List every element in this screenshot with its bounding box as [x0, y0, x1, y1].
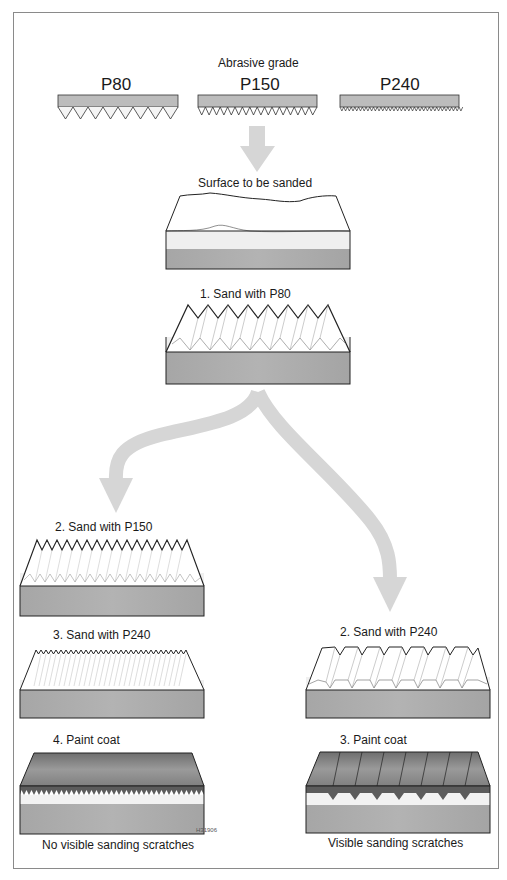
block-p150	[20, 540, 204, 616]
label-right-step2: 2. Sand with P240	[340, 625, 437, 639]
block-p80	[166, 305, 350, 384]
abrasive-p150	[198, 95, 317, 115]
label-surface: Surface to be sanded	[198, 176, 312, 190]
sanding-diagram	[0, 0, 507, 880]
label-right-result: Visible sanding scratches	[328, 836, 463, 850]
label-step1: 1. Sand with P80	[200, 287, 291, 301]
arrow-right-head-icon	[373, 577, 407, 612]
label-left-result: No visible sanding scratches	[42, 838, 194, 852]
arrow-down-icon	[240, 126, 275, 172]
block-paint-scratched	[306, 752, 490, 833]
grade-label-p150: P150	[240, 75, 280, 95]
label-left-step3: 3. Sand with P240	[53, 628, 150, 642]
figure-code: H31906	[196, 827, 217, 833]
grade-label-p80: P80	[101, 75, 131, 95]
block-surface	[166, 193, 350, 269]
arrow-left-head-icon	[99, 478, 133, 513]
label-left-step4: 4. Paint coat	[53, 733, 120, 747]
abrasive-p240	[340, 95, 463, 111]
diagram-title: Abrasive grade	[218, 56, 299, 70]
block-p240-left	[20, 650, 204, 718]
label-right-step3: 3. Paint coat	[340, 733, 407, 747]
block-p240-right	[306, 647, 490, 718]
block-paint-smooth	[20, 753, 204, 834]
grade-label-p240: P240	[380, 75, 420, 95]
label-left-step2: 2. Sand with P150	[55, 520, 152, 534]
abrasive-p80	[58, 95, 178, 119]
